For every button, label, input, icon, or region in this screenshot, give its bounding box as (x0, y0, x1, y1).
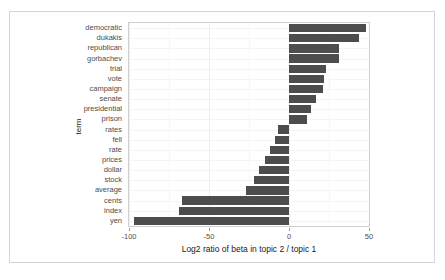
x-tick-mark (209, 228, 210, 231)
y-tick-label: democratic (66, 24, 122, 32)
bar (289, 105, 311, 113)
bar (259, 166, 289, 174)
y-tick-label: rate (66, 146, 122, 154)
bar (289, 34, 359, 42)
x-axis-title: Log2 ratio of beta in topic 2 / topic 1 (128, 244, 370, 254)
x-tick-mark (289, 228, 290, 231)
y-tick-label: gorbachev (66, 55, 122, 63)
gridline-horizontal (129, 130, 369, 131)
x-tick-label: 0 (287, 232, 291, 241)
gridline-minor (169, 23, 170, 226)
bar (270, 146, 289, 154)
y-tick-label: senate (66, 95, 122, 103)
bar (182, 196, 289, 204)
gridline-horizontal (129, 89, 369, 90)
gridline-horizontal (129, 79, 369, 80)
y-tick-label: average (66, 186, 122, 194)
gridline-horizontal (129, 109, 369, 110)
y-tick-label: vote (66, 75, 122, 83)
y-tick-label: trial (66, 65, 122, 73)
y-tick-label: cents (66, 197, 122, 205)
bar (246, 186, 289, 194)
gridline-horizontal (129, 99, 369, 100)
gridline-major (129, 23, 130, 226)
x-tick-label: -100 (121, 232, 136, 241)
bar (289, 115, 307, 123)
y-tick-label: presidential (66, 105, 122, 113)
bar (289, 75, 324, 83)
y-tick-label: dukakis (66, 34, 122, 42)
y-tick-label: stock (66, 176, 122, 184)
y-tick-label: index (66, 207, 122, 215)
y-tick-label: fell (66, 136, 122, 144)
x-tick-label: 50 (365, 232, 373, 241)
gridline-horizontal (129, 119, 369, 120)
gridline-horizontal (129, 140, 369, 141)
y-tick-label: prison (66, 115, 122, 123)
bar (289, 85, 323, 93)
bar (265, 156, 289, 164)
y-tick-label: prices (66, 156, 122, 164)
bar (179, 207, 289, 215)
gridline-horizontal (129, 180, 369, 181)
x-tick-mark (369, 228, 370, 231)
gridline-major (369, 23, 370, 226)
y-tick-label: yen (66, 217, 122, 225)
gridline-horizontal (129, 170, 369, 171)
x-tick-label: -50 (204, 232, 215, 241)
bar (289, 44, 339, 52)
plot-panel (128, 22, 370, 227)
bar (289, 54, 339, 62)
bar (289, 95, 316, 103)
bar (134, 217, 289, 225)
gridline-horizontal (129, 160, 369, 161)
y-tick-label: dollar (66, 166, 122, 174)
bar-chart: term democraticdukakisrepublicangorbache… (0, 0, 445, 280)
bar (289, 65, 326, 73)
x-tick-mark (129, 228, 130, 231)
bar (289, 24, 366, 32)
gridline-horizontal (129, 69, 369, 70)
gridline-horizontal (129, 150, 369, 151)
y-tick-label: campaign (66, 85, 122, 93)
bar (278, 125, 289, 133)
bar (254, 176, 289, 184)
bar (275, 136, 289, 144)
y-axis-tick-labels: democraticdukakisrepublicangorbachevtria… (66, 23, 122, 226)
y-tick-label: rates (66, 126, 122, 134)
y-tick-label: republican (66, 44, 122, 52)
